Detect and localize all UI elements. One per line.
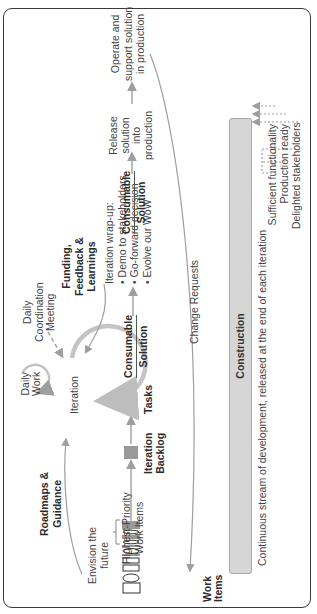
release-criteria: Sufficient functionality Production read… [266,124,302,229]
iteration-backlog-label: Iteration Backlog [142,433,166,474]
daily-coordination-label: Daily Coordination Meeting [22,282,57,342]
envision-future-label: Envision the future [86,527,110,584]
funding-feedback-learnings-label: Funding, Feedback & Learnings [60,237,98,296]
daily-work-label: Daily Work [20,372,42,396]
change-requests-label: Change Requests [188,260,201,344]
construction-bar: Construction [229,118,252,574]
roadmaps-guidance-label: Roadmaps & Guidance [38,472,64,536]
criteria-item: Sufficient functionality [266,124,278,229]
highest-priority-label: Highest-Priority Work Items [120,492,145,564]
operate-support-label: Operate and support solution in producti… [109,7,147,81]
iteration-backlog-icon [125,446,137,459]
tasks-label: Tasks [142,385,155,414]
construction-label: Construction [234,119,246,573]
consumable-solution-left: Consumable Solution [122,315,150,378]
release-solution-label: Release solution into production [108,111,154,160]
criteria-item: Production ready [278,124,290,229]
selection-bracket [113,520,120,544]
roadmaps-arrow [65,440,82,574]
work-items-label: Work Items [202,575,224,602]
diagram-stage: Work Items Highest-Priority Work Items I… [0,0,317,614]
wrapup-title: Iteration wrap-up: [103,175,116,284]
criteria-item: Delighted stakeholders [290,124,302,229]
consumable-solution-right: Consumable Solution [120,171,148,234]
iteration-label: Iteration [68,376,81,414]
construction-caption: Continuous stream of development, releas… [256,230,269,566]
